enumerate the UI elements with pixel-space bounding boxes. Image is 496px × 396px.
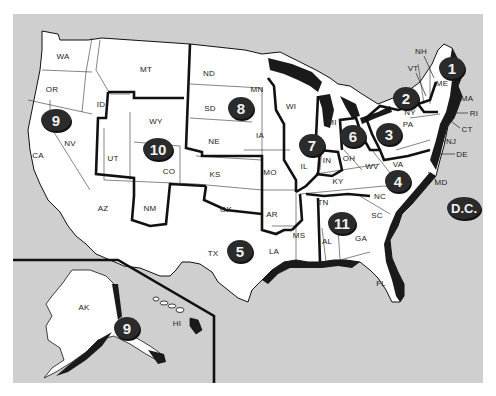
region-badge-7[interactable]: 7	[299, 134, 325, 156]
region-badge-dc[interactable]: D.C.	[447, 197, 481, 219]
region-badge-4[interactable]: 4	[385, 170, 411, 192]
region-badge-9-alaska[interactable]: 9	[114, 317, 140, 339]
region-badge-10[interactable]: 10	[143, 138, 173, 160]
region-badge-3[interactable]: 3	[376, 123, 402, 145]
label-leader-lines	[0, 0, 496, 396]
region-badge-1[interactable]: 1	[439, 57, 465, 79]
region-badge-11[interactable]: 11	[328, 212, 356, 234]
region-badge-6[interactable]: 6	[340, 125, 366, 147]
region-badge-8[interactable]: 8	[228, 97, 254, 119]
region-badge-5[interactable]: 5	[227, 240, 253, 262]
region-badge-9-west[interactable]: 9	[41, 109, 71, 131]
region-badge-2[interactable]: 2	[393, 87, 419, 109]
